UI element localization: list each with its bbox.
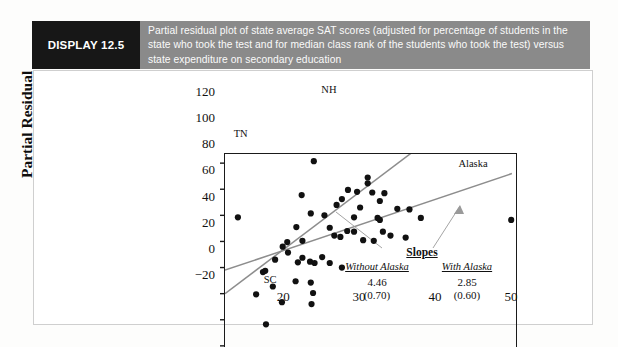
data-point xyxy=(299,255,305,261)
data-point xyxy=(380,229,386,235)
leader-line-1 xyxy=(336,212,382,248)
data-point xyxy=(369,189,375,195)
y-tick-label: 100 xyxy=(148,110,215,126)
point-label-tn: TN xyxy=(234,128,248,139)
x-tick-label: 30 xyxy=(342,289,376,305)
display-header-band: DISPLAY 12.5 Partial residual plot of st… xyxy=(32,21,590,69)
data-point xyxy=(360,237,366,243)
data-point xyxy=(333,202,339,208)
y-tick-label: 40 xyxy=(148,189,215,205)
data-point xyxy=(351,214,357,220)
display-caption: Partial residual plot of state average S… xyxy=(148,24,584,67)
data-point xyxy=(339,264,345,270)
leader-arrowhead xyxy=(454,205,464,214)
data-point xyxy=(331,232,337,238)
y-axis-title: Partial Residual xyxy=(18,71,36,178)
data-point xyxy=(337,234,343,240)
figure-panel: Partial Residual Expenditure ($100s per … xyxy=(33,70,593,325)
data-point xyxy=(365,180,371,186)
data-point xyxy=(284,239,290,245)
data-point xyxy=(381,190,387,196)
data-point xyxy=(327,260,333,266)
data-point xyxy=(321,212,327,218)
data-point xyxy=(295,259,301,265)
x-tick-label: 20 xyxy=(266,289,300,305)
plot-graphics xyxy=(35,72,618,347)
y-tick-label: 80 xyxy=(148,136,215,152)
leader-line-group xyxy=(336,205,464,248)
data-point xyxy=(339,196,345,202)
y-tick-label: −20 xyxy=(148,267,215,283)
data-point xyxy=(351,229,357,235)
data-point xyxy=(354,189,360,195)
trendline-with-alaska xyxy=(225,174,512,271)
trendline-group xyxy=(225,153,512,294)
data-point xyxy=(285,249,291,255)
data-point xyxy=(263,321,269,327)
data-point xyxy=(253,291,259,297)
y-tick-label: 120 xyxy=(148,84,215,100)
y-tick-label: 20 xyxy=(148,215,215,231)
y-tick-label: 60 xyxy=(148,162,215,178)
data-point xyxy=(377,217,383,223)
y-tick-label: 0 xyxy=(148,241,215,257)
data-point xyxy=(344,228,350,234)
data-point xyxy=(406,206,412,212)
point-label-alaska: Alaska xyxy=(458,158,487,169)
figure-page: DISPLAY 12.5 Partial residual plot of st… xyxy=(0,0,618,347)
data-point xyxy=(310,290,316,296)
data-point xyxy=(311,158,317,164)
data-point xyxy=(308,301,314,307)
data-point xyxy=(293,224,299,230)
data-point xyxy=(308,279,314,285)
data-point xyxy=(299,238,305,244)
data-point xyxy=(319,254,325,260)
point-label-sc: SC xyxy=(264,274,277,285)
data-point-group xyxy=(235,158,514,347)
axis-tick-group xyxy=(220,163,512,347)
data-point xyxy=(377,198,383,204)
data-point xyxy=(299,192,305,198)
data-point xyxy=(308,210,314,216)
data-point xyxy=(508,217,514,223)
data-point xyxy=(292,278,298,284)
data-point xyxy=(418,215,424,221)
data-point xyxy=(387,232,393,238)
data-point xyxy=(371,238,377,244)
data-point xyxy=(272,257,278,263)
data-point xyxy=(235,214,241,220)
data-point xyxy=(345,187,351,193)
data-point xyxy=(403,234,409,240)
x-tick-label: 50 xyxy=(494,289,528,305)
scatter-plot-frame xyxy=(224,153,517,347)
data-point xyxy=(394,206,400,212)
leader-line-2 xyxy=(433,206,460,248)
data-point xyxy=(280,244,286,250)
data-point xyxy=(357,204,363,210)
display-number-tag: DISPLAY 12.5 xyxy=(32,21,140,69)
data-point xyxy=(374,215,380,221)
data-point xyxy=(311,260,317,266)
data-point xyxy=(365,174,371,180)
point-label-nh: NH xyxy=(321,84,336,95)
x-tick-label: 40 xyxy=(418,289,452,305)
data-point xyxy=(307,259,313,265)
trendline-without-alaska xyxy=(225,153,412,294)
data-point xyxy=(327,225,333,231)
